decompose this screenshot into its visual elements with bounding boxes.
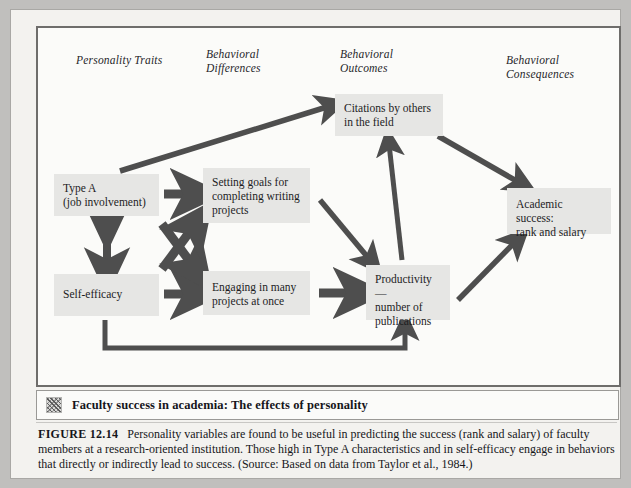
- node-productivity: Productivity— number of publications: [366, 265, 450, 320]
- node-engaging-projects: Engaging in many projects at once: [203, 271, 310, 315]
- page-root: Personality Traits Behavioral Difference…: [0, 0, 631, 488]
- figure-page-card: Personality Traits Behavioral Difference…: [11, 10, 620, 478]
- figure-caption: FIGURE 12.14Personality variables are fo…: [38, 427, 616, 473]
- arrow-productivity-to-citations: [389, 144, 402, 260]
- arrow-citations-to-academic-success: [438, 136, 520, 183]
- path-diagram: Personality Traits Behavioral Difference…: [38, 28, 619, 385]
- node-citations: Citations by others in the field: [335, 94, 443, 136]
- node-type-a: Type A (job involvement): [54, 174, 159, 216]
- arrow-setting-goals-to-productivity: [320, 200, 370, 260]
- figure-caption-label: FIGURE 12.14: [38, 427, 118, 441]
- arrow-self-efficacy-to-productivity: [105, 320, 405, 348]
- column-header-personality-traits: Personality Traits: [76, 54, 162, 68]
- node-setting-goals: Setting goals for completing writing pro…: [203, 168, 310, 223]
- arrow-type-a-to-engaging: [162, 224, 194, 267]
- caption-bar-title: Faculty success in academia: The effects…: [72, 398, 368, 413]
- arrow-type-a-to-citations: [120, 106, 330, 171]
- arrow-self-efficacy-to-setting-goals: [162, 226, 194, 269]
- figure-frame: Personality Traits Behavioral Difference…: [36, 26, 621, 387]
- figure-caption-text: Personality variables are found to be us…: [38, 427, 615, 471]
- column-header-behavioral-consequences: Behavioral Consequences: [506, 54, 574, 81]
- node-self-efficacy: Self-efficacy: [54, 274, 159, 316]
- caption-divider: [36, 422, 617, 423]
- column-header-behavioral-outcomes: Behavioral Outcomes: [340, 48, 393, 75]
- caption-bar: Faculty success in academia: The effects…: [36, 390, 619, 420]
- column-header-behavioral-differences: Behavioral Differences: [206, 48, 261, 75]
- arrow-productivity-to-academic-success: [458, 241, 516, 300]
- node-academic-success: Academic success: rank and salary: [507, 188, 611, 234]
- halftone-square-icon: [46, 397, 62, 413]
